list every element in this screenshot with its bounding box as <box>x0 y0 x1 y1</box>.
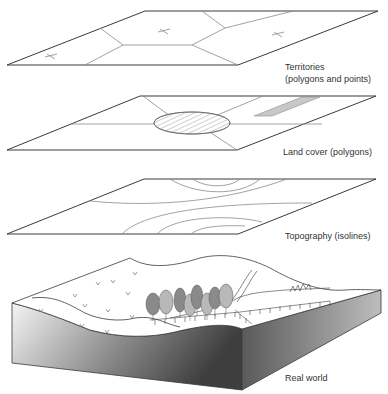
gis-layers-diagram: Territories (polygons and points) Land c… <box>0 0 388 394</box>
territories-label-line2: (polygons and points) <box>285 74 371 84</box>
topography-plane <box>7 179 376 234</box>
tree <box>146 293 160 315</box>
forest-polygon-hatch <box>154 112 230 134</box>
real-world-block: Real world <box>12 256 381 390</box>
tree <box>159 290 173 314</box>
territories-label-line1: Territories <box>285 62 325 72</box>
territories-layer: Territories (polygons and points) <box>7 11 378 84</box>
tree <box>219 284 233 308</box>
topography-layer: Topography (isolines) <box>7 179 376 241</box>
topography-label: Topography (isolines) <box>285 231 371 241</box>
real-world-label: Real world <box>285 373 328 383</box>
territories-plane <box>7 11 378 65</box>
land-cover-layer: Land cover (polygons) <box>7 96 376 157</box>
land-cover-label: Land cover (polygons) <box>283 147 372 157</box>
